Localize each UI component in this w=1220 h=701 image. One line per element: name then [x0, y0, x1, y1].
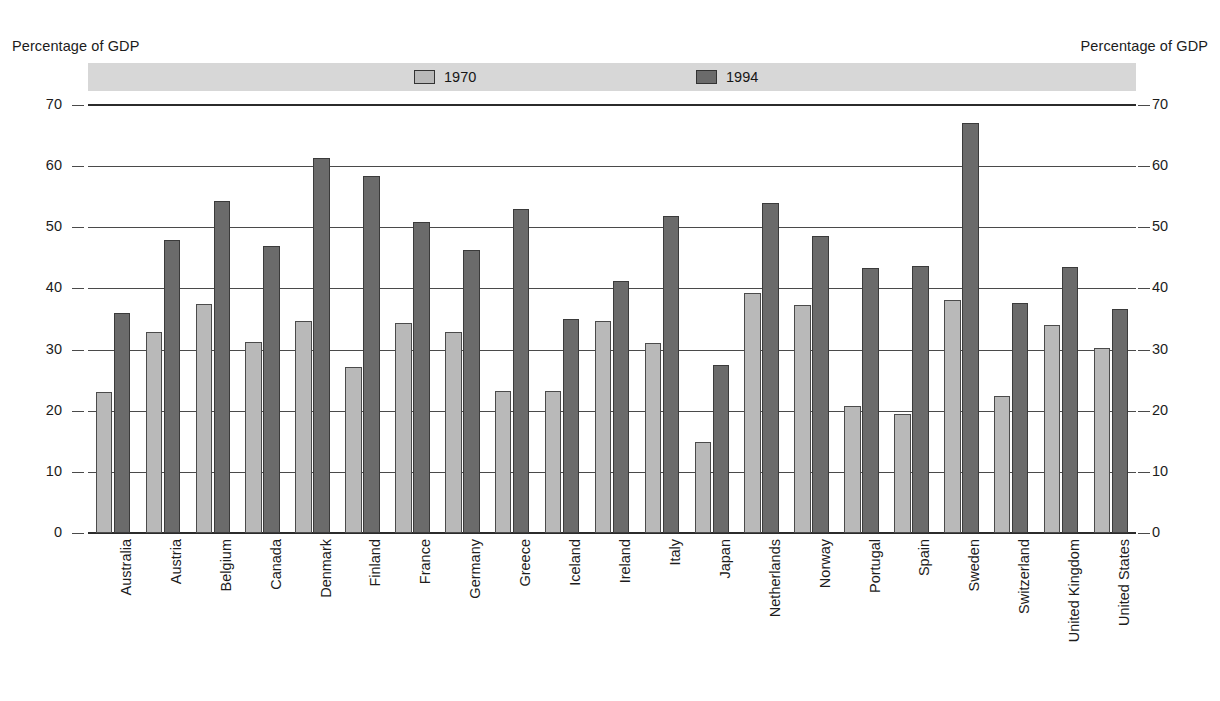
bar-switzerland-1994[interactable]: [1012, 303, 1029, 534]
legend-label-1994: 1994: [726, 70, 758, 85]
bar-portugal-1994[interactable]: [862, 268, 879, 533]
bar-united-kingdom-1994[interactable]: [1062, 267, 1079, 533]
x-label-denmark: Denmark: [319, 539, 334, 598]
bar-united-states-1970[interactable]: [1094, 348, 1111, 533]
bar-australia-1970[interactable]: [96, 392, 113, 533]
x-axis-category-labels: AustraliaAustriaBelgiumCanadaDenmarkFinl…: [88, 539, 1136, 699]
x-label-australia: Australia: [119, 539, 134, 595]
y-tick-left-50: 50: [18, 219, 62, 234]
bar-spain-1970[interactable]: [894, 414, 911, 533]
bar-austria-1994[interactable]: [164, 240, 181, 533]
x-label-belgium: Belgium: [219, 539, 234, 591]
y-tick-mark-left-30: [72, 350, 84, 351]
plot-area: [88, 105, 1136, 533]
bar-sweden-1970[interactable]: [944, 300, 961, 533]
y-tick-mark-right-20: [1138, 411, 1150, 412]
y-tick-mark-left-20: [72, 411, 84, 412]
x-label-canada: Canada: [269, 539, 284, 590]
bar-finland-1994[interactable]: [363, 176, 380, 533]
y-tick-right-70: 70: [1152, 97, 1196, 112]
x-label-switzerland: Switzerland: [1017, 539, 1032, 614]
y-tick-left-20: 20: [18, 403, 62, 418]
x-label-greece: Greece: [518, 539, 533, 587]
x-label-sweden: Sweden: [967, 539, 982, 591]
bar-norway-1994[interactable]: [812, 236, 829, 533]
bar-spain-1994[interactable]: [912, 266, 929, 533]
y-tick-right-50: 50: [1152, 219, 1196, 234]
bar-united-kingdom-1970[interactable]: [1044, 325, 1061, 533]
y-tick-left-70: 70: [18, 97, 62, 112]
x-label-iceland: Iceland: [568, 539, 583, 586]
bar-netherlands-1994[interactable]: [762, 203, 779, 533]
bar-australia-1994[interactable]: [114, 313, 131, 533]
bar-germany-1970[interactable]: [445, 332, 462, 533]
bar-denmark-1994[interactable]: [313, 158, 330, 533]
bar-finland-1970[interactable]: [345, 367, 362, 533]
x-label-finland: Finland: [368, 539, 383, 587]
bar-canada-1970[interactable]: [245, 342, 262, 533]
bar-series-group: [88, 105, 1136, 533]
x-label-united-states: United States: [1117, 539, 1132, 626]
y-tick-mark-right-30: [1138, 350, 1150, 351]
legend-label-1970: 1970: [444, 70, 476, 85]
bar-netherlands-1970[interactable]: [744, 293, 761, 533]
gdp-bar-chart: Percentage of GDP Percentage of GDP 1970…: [0, 0, 1220, 701]
bar-switzerland-1970[interactable]: [994, 396, 1011, 533]
y-tick-mark-left-10: [72, 472, 84, 473]
x-label-france: France: [418, 539, 433, 584]
legend-item-1970[interactable]: 1970: [414, 68, 476, 86]
bar-austria-1970[interactable]: [146, 332, 163, 533]
bar-greece-1994[interactable]: [513, 209, 530, 533]
bar-germany-1994[interactable]: [463, 250, 480, 533]
bar-france-1994[interactable]: [413, 222, 430, 533]
y-tick-mark-left-40: [72, 288, 84, 289]
y-tick-left-40: 40: [18, 280, 62, 295]
y-tick-mark-right-50: [1138, 227, 1150, 228]
x-label-italy: Italy: [668, 539, 683, 566]
y-tick-right-30: 30: [1152, 342, 1196, 357]
bar-iceland-1994[interactable]: [563, 319, 580, 533]
bar-portugal-1970[interactable]: [844, 406, 861, 533]
x-label-portugal: Portugal: [868, 539, 883, 593]
y-axis-title-left: Percentage of GDP: [12, 38, 139, 54]
x-label-ireland: Ireland: [618, 539, 633, 583]
legend-swatch-1970-icon: [414, 70, 435, 84]
x-label-austria: Austria: [169, 539, 184, 584]
bar-japan-1970[interactable]: [695, 442, 712, 533]
y-tick-mark-left-0: [72, 533, 84, 534]
x-label-germany: Germany: [468, 539, 483, 599]
bar-italy-1970[interactable]: [645, 343, 662, 533]
y-tick-left-30: 30: [18, 342, 62, 357]
legend-swatch-1994-icon: [696, 70, 717, 84]
y-tick-right-60: 60: [1152, 158, 1196, 173]
bar-greece-1970[interactable]: [495, 391, 512, 533]
bar-france-1970[interactable]: [395, 323, 412, 533]
bar-denmark-1970[interactable]: [295, 321, 312, 533]
y-tick-mark-right-10: [1138, 472, 1150, 473]
bar-ireland-1970[interactable]: [595, 321, 612, 533]
x-label-netherlands: Netherlands: [768, 539, 783, 617]
legend-item-1994[interactable]: 1994: [696, 68, 758, 86]
bar-italy-1994[interactable]: [663, 216, 680, 533]
bar-norway-1970[interactable]: [794, 305, 811, 533]
y-tick-right-0: 0: [1152, 525, 1196, 540]
y-tick-left-10: 10: [18, 464, 62, 479]
bar-iceland-1970[interactable]: [545, 391, 562, 533]
y-tick-mark-right-60: [1138, 166, 1150, 167]
y-tick-right-40: 40: [1152, 280, 1196, 295]
y-tick-mark-right-0: [1138, 533, 1150, 534]
bar-canada-1994[interactable]: [263, 246, 280, 533]
y-tick-mark-left-50: [72, 227, 84, 228]
y-tick-mark-left-60: [72, 166, 84, 167]
bar-sweden-1994[interactable]: [962, 123, 979, 533]
x-label-united-kingdom: United Kingdom: [1067, 539, 1082, 642]
bar-japan-1994[interactable]: [713, 365, 730, 533]
y-tick-mark-right-40: [1138, 288, 1150, 289]
x-label-norway: Norway: [818, 539, 833, 588]
bar-ireland-1994[interactable]: [613, 281, 630, 533]
bar-united-states-1994[interactable]: [1112, 309, 1129, 533]
bar-belgium-1970[interactable]: [196, 304, 213, 533]
y-axis-title-right: Percentage of GDP: [1081, 38, 1208, 54]
y-tick-right-20: 20: [1152, 403, 1196, 418]
bar-belgium-1994[interactable]: [214, 201, 231, 533]
